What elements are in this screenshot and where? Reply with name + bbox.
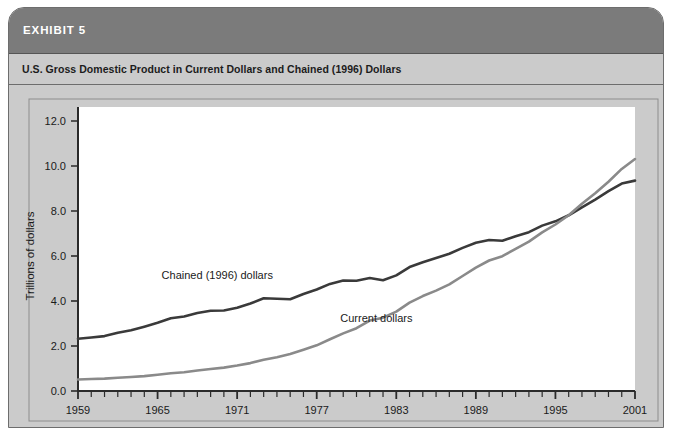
series-annotation: Chained (1996) dollars	[162, 269, 274, 281]
x-axis-tick-label: 1971	[225, 404, 249, 416]
x-axis-tick-label: 1983	[384, 404, 408, 416]
exhibit-header-band: EXHIBIT 5	[9, 8, 663, 54]
y-axis-tick-label: 6.0	[51, 250, 66, 262]
x-axis-tick-label: 1995	[543, 404, 567, 416]
plot-background	[78, 107, 635, 391]
exhibit-card: EXHIBIT 5 U.S. Gross Domestic Product in…	[8, 7, 664, 428]
y-axis-tick-label: 0.0	[51, 385, 66, 397]
y-axis-tick-label: 8.0	[51, 205, 66, 217]
exhibit-label: EXHIBIT 5	[23, 24, 86, 36]
x-axis-tick-label: 1965	[145, 404, 169, 416]
exhibit-subtitle: U.S. Gross Domestic Product in Current D…	[22, 63, 401, 75]
y-axis-tick-label: 4.0	[51, 295, 66, 307]
x-axis-tick-label: 1989	[464, 404, 488, 416]
series-annotation: Current dollars	[340, 312, 413, 324]
y-axis-tick-label: 2.0	[51, 340, 66, 352]
y-axis-tick-label: 10.0	[45, 160, 66, 172]
gdp-line-chart: 0.02.04.06.08.010.012.0Trillions of doll…	[9, 86, 663, 428]
y-axis-title: Trillions of dollars	[24, 211, 36, 300]
x-axis-tick-label: 1959	[66, 404, 90, 416]
y-axis-tick-label: 12.0	[45, 115, 66, 127]
chart-area: 0.02.04.06.08.010.012.0Trillions of doll…	[9, 86, 663, 428]
x-axis-tick-label: 1977	[304, 404, 328, 416]
exhibit-subtitle-band: U.S. Gross Domestic Product in Current D…	[9, 54, 663, 85]
x-axis-tick-label: 2001	[623, 404, 647, 416]
